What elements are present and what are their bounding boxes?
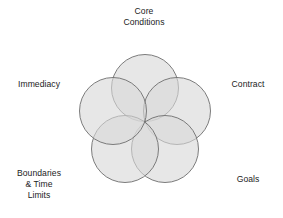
label-boundaries-time-limits: Boundaries & Time Limits xyxy=(1,168,77,202)
venn-diagram-figure: Core Conditions Immediacy Contract Bound… xyxy=(0,0,283,218)
label-contract: Contract xyxy=(214,79,282,90)
label-immediacy: Immediacy xyxy=(2,79,76,90)
label-goals: Goals xyxy=(214,174,282,185)
circle-immediacy xyxy=(80,78,147,145)
label-core-conditions: Core Conditions xyxy=(98,6,190,28)
venn-circle-group xyxy=(80,55,211,183)
